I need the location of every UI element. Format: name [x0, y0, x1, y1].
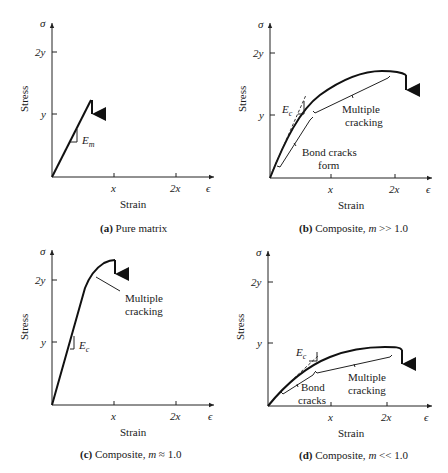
multiple-cracking-pointer	[96, 277, 120, 291]
x-tick-x-label: x	[327, 411, 333, 423]
x-tick-2x-label: 2x	[170, 410, 181, 422]
modulus-label: Em	[81, 134, 95, 149]
y-tick-y-label: y	[40, 336, 46, 348]
x-tick-x-label: x	[327, 183, 333, 195]
panel-c-caption: (c) Composite, m ≈ 1.0	[80, 448, 182, 461]
x-tick-2x-label: 2x	[381, 411, 392, 423]
stress-strain-curve	[52, 260, 115, 405]
y-axis-title: Stress	[236, 86, 248, 112]
multiple-cracking-label-line1: Multiple	[125, 292, 163, 304]
x-axis-title: Strain	[338, 427, 365, 439]
y-tick-y-label: y	[256, 337, 262, 349]
modulus-slope-triangle	[309, 352, 317, 361]
panel-b-caption: (b) Composite, m >> 1.0	[299, 222, 408, 235]
y-tick-2y-label: 2y	[35, 46, 46, 58]
y-tick-y-label: y	[258, 109, 264, 121]
y-tick-2y-label: 2y	[35, 274, 46, 286]
y-tick-2y-label: 2y	[253, 47, 264, 59]
y-axis-title: Stress	[18, 314, 30, 340]
x-axis-title: Strain	[120, 426, 147, 438]
y-axis-symbol: σ	[258, 18, 264, 30]
y-axis-symbol: σ	[40, 245, 46, 257]
x-axis-symbol: ϵ	[206, 182, 211, 194]
x-tick-2x-label: 2x	[170, 182, 181, 194]
panel-d-caption: (d) Composite, m << 1.0	[299, 449, 408, 462]
bond-cracks-label-line1: Bond cracks	[302, 146, 357, 158]
modulus-label: Ec	[78, 339, 90, 354]
y-axis-symbol: σ	[40, 17, 46, 29]
modulus-label: Ec	[281, 103, 293, 118]
x-axis-symbol: ϵ	[208, 410, 213, 422]
y-axis-symbol: σ	[256, 246, 262, 258]
modulus-label: Ec	[295, 346, 307, 361]
multiple-cracking-label-line2: cracking	[125, 305, 163, 317]
bond-cracks-label-line1: Bond	[301, 381, 325, 393]
panel-c-composite-m-approx-one: σ 2y y x 2x ϵ Stress Strain Ec Multiple …	[18, 245, 214, 461]
bond-cracks-label-line2: form	[318, 159, 340, 171]
bond-cracks-label-line2: cracks	[298, 394, 326, 406]
x-tick-2x-label: 2x	[389, 183, 400, 195]
x-axis-symbol: ϵ	[424, 411, 429, 423]
x-tick-x-label: x	[110, 182, 116, 194]
panel-a-pure-matrix: σ 2y y x 2x ϵ Stress Strain Em (a) Pure …	[18, 17, 214, 235]
panel-a-caption: (a) Pure matrix	[100, 222, 168, 235]
x-axis-title: Strain	[338, 199, 365, 211]
y-axis-title: Stress	[234, 314, 246, 340]
x-tick-x-label: x	[110, 410, 116, 422]
multiple-cracking-label-line1: Multiple	[342, 103, 380, 115]
x-axis-title: Strain	[120, 198, 147, 210]
y-tick-2y-label: 2y	[251, 276, 262, 288]
multiple-cracking-label-line2: cracking	[348, 384, 386, 396]
x-axis-symbol: ϵ	[426, 183, 431, 195]
panel-b-composite-m-much-greater: σ 2y y x 2x ϵ Stress Strain Ec Bond crac…	[236, 18, 432, 235]
y-tick-y-label: y	[40, 108, 46, 120]
multiple-cracking-label-line2: cracking	[345, 116, 383, 128]
panel-d-composite-m-much-less: σ 2y y x 2x ϵ Stress Strain Ec Bond crac…	[234, 246, 432, 462]
y-axis-title: Stress	[18, 86, 30, 112]
multiple-cracking-label-line1: Multiple	[348, 371, 386, 383]
stress-strain-figure: σ 2y y x 2x ϵ Stress Strain Em (a) Pure …	[0, 0, 448, 473]
